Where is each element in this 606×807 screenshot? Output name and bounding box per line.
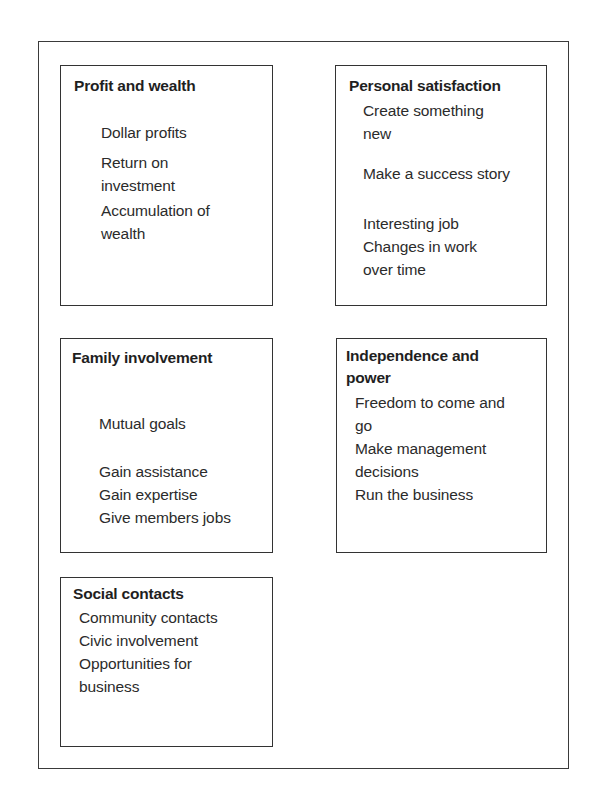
- list-item: Create something new: [363, 99, 484, 145]
- box-personal-satisfaction: Personal satisfaction Create something n…: [335, 65, 547, 306]
- list-item: Interesting job: [363, 212, 459, 235]
- list-item: Dollar profits: [101, 121, 187, 144]
- list-item: Run the business: [355, 483, 473, 506]
- box-profit-and-wealth: Profit and wealth Dollar profits Return …: [60, 65, 273, 306]
- box-independence-and-power: Independence and power Freedom to come a…: [336, 338, 547, 553]
- box-title: Personal satisfaction: [349, 75, 501, 97]
- box-title: Social contacts: [73, 583, 184, 605]
- list-item: Community contacts: [79, 606, 218, 629]
- list-item: Gain expertise: [99, 483, 198, 506]
- list-item: Civic involvement: [79, 629, 198, 652]
- list-item: Accumulation of wealth: [101, 199, 210, 245]
- list-item: Changes in work over time: [363, 235, 477, 281]
- list-item: Gain assistance: [99, 460, 208, 483]
- box-title: Family involvement: [72, 347, 212, 369]
- list-item: Freedom to come and go: [355, 391, 505, 437]
- list-item: Make management decisions: [355, 437, 486, 483]
- box-social-contacts: Social contacts Community contacts Civic…: [60, 577, 273, 747]
- list-item: Give members jobs: [99, 506, 231, 529]
- list-item: Make a success story: [363, 162, 510, 185]
- list-item: Return on investment: [101, 151, 175, 197]
- list-item: Opportunities for business: [79, 652, 192, 698]
- box-family-involvement: Family involvement Mutual goals Gain ass…: [60, 338, 273, 553]
- list-item: Mutual goals: [99, 412, 186, 435]
- box-title: Profit and wealth: [74, 75, 195, 97]
- box-title: Independence and power: [346, 345, 479, 389]
